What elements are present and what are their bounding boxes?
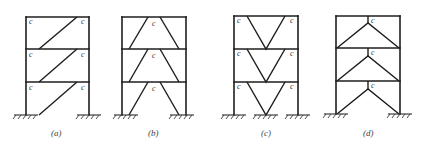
fixed-support [13,115,38,119]
frame-c: c c c c c c (c) [221,16,310,138]
link-label: c [290,16,294,25]
link-label: c [152,19,156,28]
panel-caption: (b) [148,128,159,138]
panel-caption: (a) [51,128,62,138]
fixed-support [285,115,310,119]
fixed-support [387,114,412,118]
link-label: c [81,17,85,26]
link-label: c [81,83,85,92]
diagonal-brace [39,49,77,82]
link-label: c [29,50,33,59]
link-label: c [290,49,294,58]
link-label: c [237,49,241,58]
panel-caption: (c) [261,128,271,138]
fixed-support [221,115,246,119]
frame-b: c c c (b) [113,17,194,138]
link-label: c [237,82,241,91]
chevron-brace [129,49,148,82]
chevron-brace [160,17,179,49]
link-label: c [237,16,241,25]
v-brace [247,49,285,82]
braced-frames-diagram: c c c c c c (a) c c c (b) [0,0,427,157]
fixed-support [323,114,348,118]
link-label: c [29,17,33,26]
link-label: c [81,50,85,59]
chevron-brace [129,82,148,115]
link-label: c [152,84,156,93]
frame-a: c c c c c c (a) [13,17,101,138]
link-label: c [371,81,375,90]
chevron-brace [129,17,148,49]
fixed-support [76,115,101,119]
link-label: c [371,48,375,57]
link-label: c [152,51,156,60]
link-label: c [290,82,294,91]
link-label: c [29,83,33,92]
inverted-v-brace [337,56,399,81]
fixed-support [113,115,138,119]
chevron-brace [160,82,179,115]
fixed-support [253,115,278,119]
diagonal-brace [39,17,77,49]
panel-caption: (d) [363,128,374,138]
diagonal-brace [39,82,77,115]
v-brace [247,82,285,115]
link-label: c [371,16,375,25]
frame-d: c c c (d) [323,16,412,138]
inverted-v-brace [337,23,399,48]
v-brace [247,16,285,49]
chevron-brace [160,49,179,82]
fixed-support [169,115,194,119]
inverted-v-brace [337,89,399,114]
